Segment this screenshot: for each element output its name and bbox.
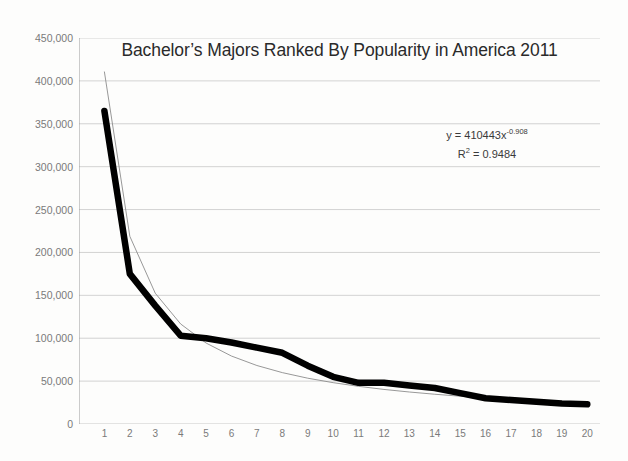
x-axis-tick-label: 18	[531, 428, 542, 439]
gridlines	[79, 38, 600, 424]
x-axis-tick-label: 8	[280, 428, 286, 439]
x-axis-tick-label: 11	[353, 428, 363, 439]
x-axis-tick-label: 3	[152, 428, 158, 439]
r-squared-value: = 0.9484	[470, 147, 516, 159]
y-axis-tick-label: 300,000	[9, 161, 73, 173]
y-axis-tick-label: 200,000	[9, 246, 73, 258]
x-axis-tick-label: 16	[480, 428, 491, 439]
x-axis-tick-label: 20	[582, 428, 593, 439]
y-axis-tick-label: 450,000	[9, 32, 73, 44]
x-axis-tick-label: 13	[404, 428, 415, 439]
x-axis-tick-label: 5	[203, 428, 209, 439]
x-axis-tick-label: 12	[378, 428, 389, 439]
y-axis-tick-label: 50,000	[9, 375, 73, 387]
plot-svg	[79, 38, 600, 424]
x-axis-tick-label: 7	[254, 428, 260, 439]
r-squared-label: R	[458, 147, 466, 159]
x-axis-tick-label: 14	[429, 428, 440, 439]
y-axis-tick-label: 250,000	[9, 204, 73, 216]
trendline-path	[104, 72, 587, 403]
y-axis-tick-label: 150,000	[9, 289, 73, 301]
x-axis-tick-label: 10	[328, 428, 339, 439]
axis-lines	[79, 38, 575, 424]
x-axis-tick-label: 17	[505, 428, 516, 439]
r-squared-line: R2 = 0.9484	[404, 143, 570, 162]
x-axis-tick-label: 6	[229, 428, 235, 439]
trendline-equation-annotation: y = 410443x-0.908 R2 = 0.9484	[404, 124, 570, 161]
equation-exponent: -0.908	[506, 127, 527, 136]
chart-title: Bachelor’s Majors Ranked By Popularity i…	[79, 40, 600, 61]
y-axis-tick-label: 0	[9, 418, 73, 430]
equation-text: y = 410443x	[446, 129, 506, 141]
x-axis-tick-label: 19	[556, 428, 567, 439]
x-axis-tick-label: 4	[178, 428, 184, 439]
y-axis-tick-label: 100,000	[9, 332, 73, 344]
plot-area	[79, 38, 600, 424]
y-axis-tick-label: 350,000	[9, 118, 73, 130]
x-axis-tick-label: 15	[455, 428, 466, 439]
chart-container: 050,000100,000150,000200,000250,000300,0…	[0, 0, 628, 461]
equation-line: y = 410443x-0.908	[404, 124, 570, 143]
x-axis-tick-label: 1	[102, 428, 108, 439]
x-axis-tick-label: 9	[305, 428, 311, 439]
y-axis-tick-labels: 050,000100,000150,000200,000250,000300,0…	[5, 38, 73, 424]
y-axis-tick-label: 400,000	[9, 75, 73, 87]
x-axis-tick-label: 2	[127, 428, 133, 439]
x-axis-tick-labels: 1234567891011121314151617181920	[79, 428, 600, 448]
